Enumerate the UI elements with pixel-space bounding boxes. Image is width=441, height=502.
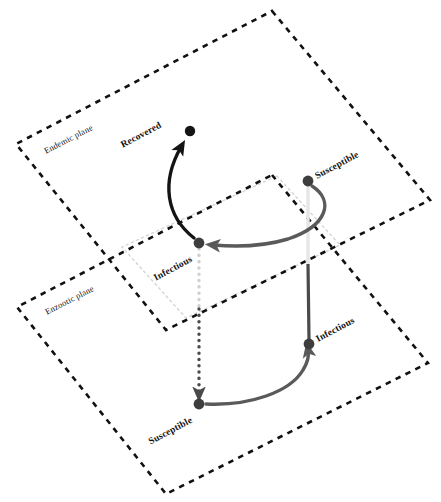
plane-enzootic-outline xyxy=(17,175,428,494)
diagram-canvas: Endemic plane Enzootic plane Recovered xyxy=(0,0,441,502)
node-infectious-enzootic[interactable]: Infectious xyxy=(304,315,357,349)
plane-enzootic: Enzootic plane xyxy=(17,175,428,494)
edges-vertical xyxy=(199,186,309,394)
node-susceptible-endemic[interactable]: Susceptible xyxy=(303,149,361,186)
edge-susceptible-to-infectious-enzootic xyxy=(206,350,308,404)
node-dot[interactable] xyxy=(194,399,205,410)
plane-endemic: Endemic plane xyxy=(16,11,430,330)
node-label: Susceptible xyxy=(313,149,360,180)
node-dot[interactable] xyxy=(304,339,315,350)
node-dot[interactable] xyxy=(303,176,314,187)
edge-susceptible-vertical-lower xyxy=(308,264,309,340)
edges-curved xyxy=(169,147,325,404)
plane-endemic-outline xyxy=(16,11,430,330)
node-label: Infectious xyxy=(152,254,194,283)
node-label: Infectious xyxy=(314,315,356,344)
node-label: Susceptible xyxy=(147,415,194,446)
node-dot[interactable] xyxy=(185,126,195,136)
node-dot[interactable] xyxy=(194,238,205,249)
node-susceptible-enzootic[interactable]: Susceptible xyxy=(147,399,205,447)
node-recovered-endemic[interactable]: Recovered xyxy=(119,120,195,150)
node-infectious-endemic[interactable]: Infectious xyxy=(152,238,204,283)
figure-svg: Endemic plane Enzootic plane Recovered xyxy=(0,0,441,502)
node-label: Recovered xyxy=(119,120,163,150)
